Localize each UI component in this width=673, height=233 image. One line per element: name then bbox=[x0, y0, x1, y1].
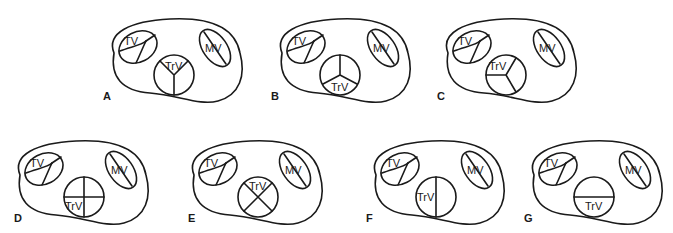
tv-label: TV bbox=[204, 157, 219, 169]
trv-label: TrV bbox=[249, 180, 267, 192]
valve-diagram: TV MV TrV A TV MV TrV B bbox=[0, 0, 673, 233]
panel-label-g: G bbox=[524, 212, 533, 224]
trv-label: TrV bbox=[585, 200, 603, 212]
tv-label: TV bbox=[386, 157, 401, 169]
mv-label: MV bbox=[205, 42, 222, 54]
tv-label: TV bbox=[458, 35, 473, 47]
truncal-valve: TrV bbox=[64, 177, 104, 217]
trv-label: TrV bbox=[331, 81, 349, 93]
tv-label: TV bbox=[292, 35, 307, 47]
mitral-valve: MV bbox=[527, 24, 571, 72]
tv-label: TV bbox=[124, 35, 139, 47]
trv-label: TrV bbox=[417, 191, 435, 203]
panel-label-a: A bbox=[103, 90, 111, 102]
truncal-valve: TrV bbox=[154, 55, 194, 95]
panel-label-b: B bbox=[271, 90, 279, 102]
panel-a: TV MV TrV A bbox=[103, 19, 242, 103]
mitral-valve: MV bbox=[193, 24, 237, 72]
mv-label: MV bbox=[625, 164, 642, 176]
panel-label-f: F bbox=[366, 212, 373, 224]
truncal-valve: TrV bbox=[238, 177, 278, 217]
panel-d: TV MV TrV D bbox=[14, 141, 148, 225]
panel-label-c: C bbox=[437, 90, 445, 102]
mv-label: MV bbox=[539, 42, 556, 54]
panel-c: TV MV TrV C bbox=[437, 19, 576, 103]
truncal-valve: TrV bbox=[574, 177, 614, 217]
panel-label-e: E bbox=[188, 212, 195, 224]
mv-label: MV bbox=[467, 164, 484, 176]
trv-label: TrV bbox=[489, 60, 507, 72]
mv-label: MV bbox=[285, 164, 302, 176]
mitral-valve: MV bbox=[273, 146, 317, 194]
trv-label: TrV bbox=[65, 200, 83, 212]
panel-e: TV MV TrV E bbox=[188, 141, 322, 225]
truncal-valve: TrV bbox=[486, 55, 526, 95]
panel-label-d: D bbox=[14, 212, 22, 224]
tv-label: TV bbox=[544, 157, 559, 169]
truncal-valve: TrV bbox=[320, 55, 360, 95]
mv-label: MV bbox=[373, 42, 390, 54]
mitral-valve: MV bbox=[613, 146, 657, 194]
panel-b: TV MV TrV B bbox=[271, 19, 410, 103]
panel-g: TV MV TrV G bbox=[524, 141, 662, 225]
tv-label: TV bbox=[30, 157, 45, 169]
panel-f: TV MV TrV F bbox=[366, 141, 504, 225]
trv-label: TrV bbox=[165, 60, 183, 72]
mitral-valve: MV bbox=[99, 146, 143, 194]
truncal-valve: TrV bbox=[416, 177, 456, 217]
mitral-valve: MV bbox=[361, 24, 405, 72]
mitral-valve: MV bbox=[455, 146, 499, 194]
mv-label: MV bbox=[111, 164, 128, 176]
